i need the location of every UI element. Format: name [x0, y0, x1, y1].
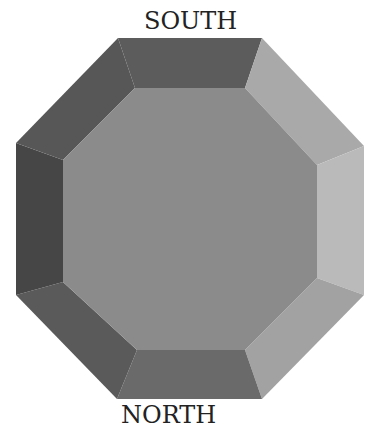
facet-top [118, 38, 262, 88]
facet-bottom [117, 350, 262, 399]
facet-left [16, 143, 63, 295]
facet-center [63, 88, 317, 350]
octagon-diagram [0, 0, 376, 436]
facet-right [317, 146, 364, 295]
north-label: NORTH [121, 403, 216, 427]
